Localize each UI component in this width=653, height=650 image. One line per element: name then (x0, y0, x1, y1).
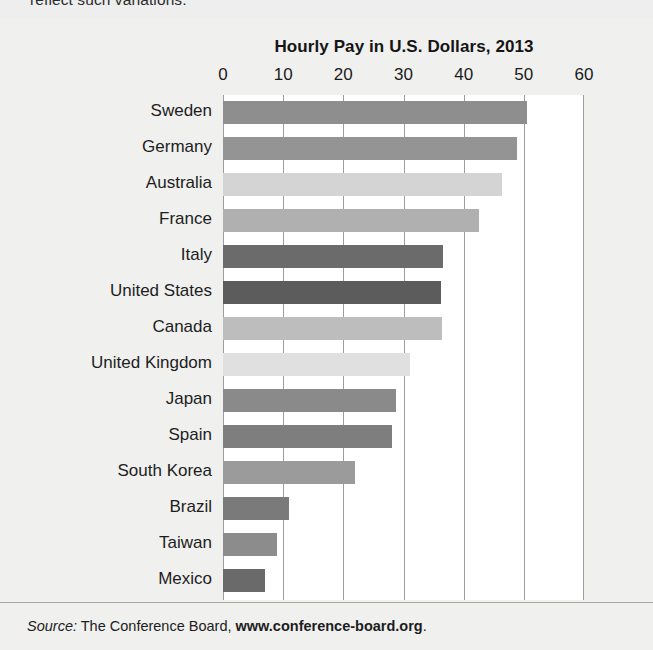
bar (223, 173, 502, 196)
bar-category-label: Australia (0, 173, 212, 193)
bar-category-label: Sweden (0, 101, 212, 121)
bar (223, 389, 396, 412)
source-publisher: The Conference Board, (81, 618, 232, 634)
chart-card: Hourly Pay in U.S. Dollars, 2013 0102030… (0, 18, 653, 602)
bar-category-label: Spain (0, 425, 212, 445)
x-axis-tick-labels: 0102030405060 (0, 65, 653, 87)
bar-row: Canada (0, 311, 653, 347)
figure-bottom-rule (0, 602, 653, 603)
bar-category-label: Japan (0, 389, 212, 409)
bar (223, 209, 479, 232)
bar (223, 281, 441, 304)
bar-row: Spain (0, 419, 653, 455)
source-label: Source: (27, 618, 77, 634)
bar (223, 461, 355, 484)
bar-row: France (0, 203, 653, 239)
bar (223, 425, 392, 448)
source-terminator: . (423, 618, 427, 634)
bar-row: Taiwan (0, 527, 653, 563)
bar-row: Brazil (0, 491, 653, 527)
bar-row: United Kingdom (0, 347, 653, 383)
bar-category-label: Brazil (0, 497, 212, 517)
bar (223, 101, 527, 124)
bar (223, 569, 265, 592)
bar-category-label: Germany (0, 137, 212, 157)
clipped-body-text: reflect such variations. (0, 0, 653, 7)
x-tick-label: 0 (203, 65, 243, 85)
bar-row: Japan (0, 383, 653, 419)
x-tick-label: 30 (384, 65, 424, 85)
bar-category-label: United Kingdom (0, 353, 212, 373)
x-tick-label: 10 (263, 65, 303, 85)
chart-figure: Hourly Pay in U.S. Dollars, 2013 0102030… (0, 18, 653, 650)
bar-row: Australia (0, 167, 653, 203)
bar-row: Germany (0, 131, 653, 167)
x-tick-label: 50 (504, 65, 544, 85)
bar-category-label: Canada (0, 317, 212, 337)
bar-row: Sweden (0, 95, 653, 131)
bar (223, 533, 277, 556)
bar-category-label: Mexico (0, 569, 212, 589)
bar (223, 497, 289, 520)
bar-row: South Korea (0, 455, 653, 491)
x-tick-label: 20 (323, 65, 363, 85)
bar-row: Italy (0, 239, 653, 275)
bar (223, 317, 442, 340)
chart-title: Hourly Pay in U.S. Dollars, 2013 (223, 37, 585, 57)
bar-category-label: United States (0, 281, 212, 301)
bar (223, 353, 410, 376)
bar-category-label: Italy (0, 245, 212, 265)
bar-rows: SwedenGermanyAustraliaFranceItalyUnited … (0, 95, 653, 600)
bar-row: United States (0, 275, 653, 311)
bar-row: Mexico (0, 563, 653, 599)
source-note: Source: The Conference Board, www.confer… (27, 618, 427, 634)
x-tick-label: 60 (564, 65, 604, 85)
source-url[interactable]: www.conference-board.org (236, 618, 423, 634)
bar-category-label: Taiwan (0, 533, 212, 553)
bar-category-label: South Korea (0, 461, 212, 481)
bar-category-label: France (0, 209, 212, 229)
bar (223, 137, 517, 160)
bar (223, 245, 443, 268)
x-tick-label: 40 (444, 65, 484, 85)
